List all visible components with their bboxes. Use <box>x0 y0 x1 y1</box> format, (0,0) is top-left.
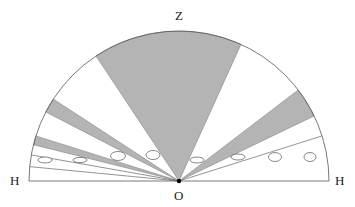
origin-label: O <box>174 188 183 203</box>
ellipse-shape <box>190 157 204 163</box>
ellipse-shape <box>269 153 282 162</box>
ellipse-shape <box>73 157 87 162</box>
origin-point <box>177 179 181 183</box>
ellipse-shape <box>231 154 245 160</box>
horizon-right-label: H <box>335 173 344 188</box>
semicircle-diagram: Z O H H <box>0 0 355 207</box>
ellipse-shape <box>304 153 316 162</box>
ellipse-shape <box>111 152 126 161</box>
horizon-left-label: H <box>10 173 19 188</box>
zenith-label: Z <box>175 8 183 23</box>
ellipse-shape <box>38 157 52 163</box>
ellipse-shape <box>146 151 160 160</box>
